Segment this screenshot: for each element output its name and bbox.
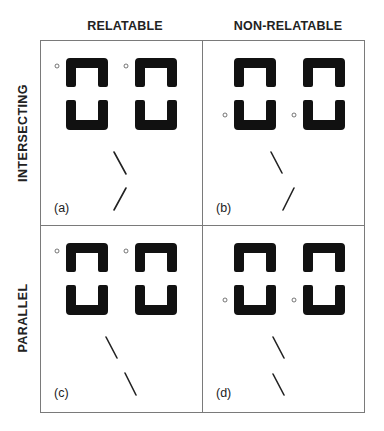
upper-bracket-shape bbox=[303, 243, 345, 272]
panel-label-a: (a) bbox=[54, 201, 69, 215]
upper-bracket-shape bbox=[66, 58, 108, 87]
line-segment-2 bbox=[283, 188, 294, 210]
lower-bracket-shape bbox=[234, 285, 276, 315]
fixation-circle-icon bbox=[223, 298, 227, 302]
occluded-square-1 bbox=[55, 58, 108, 130]
occluded-square-1 bbox=[223, 58, 276, 130]
lower-bracket-shape bbox=[135, 100, 177, 130]
lower-bracket-shape bbox=[303, 100, 345, 130]
fixation-circle-icon bbox=[292, 298, 296, 302]
lower-bracket-shape bbox=[234, 100, 276, 130]
upper-bracket-shape bbox=[66, 243, 108, 272]
upper-bracket-shape bbox=[135, 58, 177, 87]
lower-bracket-shape bbox=[66, 285, 108, 315]
fixation-circle-icon bbox=[55, 249, 59, 253]
occluded-square-2 bbox=[124, 58, 177, 130]
fixation-circle-icon bbox=[223, 113, 227, 117]
fixation-circle-icon bbox=[124, 249, 128, 253]
lower-bracket-shape bbox=[135, 285, 177, 315]
fixation-circle-icon bbox=[124, 64, 128, 68]
fixation-circle-icon bbox=[55, 64, 59, 68]
upper-bracket-shape bbox=[303, 58, 345, 87]
upper-bracket-shape bbox=[234, 58, 276, 87]
line-segment-1 bbox=[271, 152, 282, 173]
line-segment-2 bbox=[125, 373, 136, 395]
upper-bracket-shape bbox=[135, 243, 177, 272]
panel-c: (c) bbox=[54, 243, 177, 400]
occluded-square-2 bbox=[124, 243, 177, 315]
upper-bracket-shape bbox=[234, 243, 276, 272]
line-segment-2 bbox=[273, 374, 284, 395]
panel-a: (a) bbox=[54, 58, 177, 215]
line-segment-1 bbox=[106, 337, 117, 358]
lower-bracket-shape bbox=[303, 285, 345, 315]
lower-bracket-shape bbox=[66, 100, 108, 130]
panel-label-d: (d) bbox=[216, 386, 231, 400]
occluded-square-1 bbox=[55, 243, 108, 315]
line-segment-1 bbox=[114, 152, 126, 174]
line-segment-2 bbox=[114, 188, 126, 210]
occluded-square-2 bbox=[292, 58, 345, 130]
line-segment-1 bbox=[273, 337, 284, 358]
panel-d: (d) bbox=[216, 243, 345, 400]
panel-label-c: (c) bbox=[54, 386, 69, 400]
panel-b: (b) bbox=[216, 58, 345, 215]
figure-grid: (a)(b)(c)(d) bbox=[0, 0, 384, 431]
occluded-square-1 bbox=[223, 243, 276, 315]
occluded-square-2 bbox=[292, 243, 345, 315]
panel-label-b: (b) bbox=[216, 201, 231, 215]
fixation-circle-icon bbox=[292, 113, 296, 117]
